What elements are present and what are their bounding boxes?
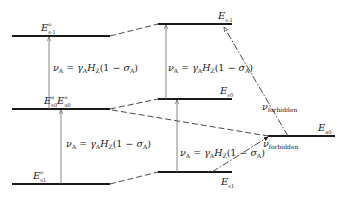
label-middle-top: Es-1 [217,10,233,23]
connector-to-right [112,110,268,136]
label-left-bottom: Eos1 [32,169,46,183]
energy-level-diagram: Eos-1 Eos0Eoa0 Eos1 Es-1 Es0 Es1 Ea0 νA … [0,0,342,198]
forbidden-transition-upper [224,27,288,136]
equation-left-lower: νA = γAHZ(1 − σA) [66,138,151,150]
connector-top [110,24,158,36]
label-right: Ea0 [317,122,331,135]
label-left-top: Eos-1 [40,21,56,35]
equation-left-upper: νA = γAHZ(1 − σA) [53,62,138,74]
forbidden-label-upper: νforbidden [262,101,297,113]
equation-middle-upper: νA = γAHZ(1 − σA) [168,62,253,74]
label-left-middle: Eos0Eoa0 [43,94,71,108]
connector-bottom [110,172,158,184]
forbidden-label-lower: νforbidden [263,138,298,150]
label-middle-bottom: Es1 [220,176,234,189]
connector-middle [110,99,158,109]
equation-middle-lower: νA = γAHZ(1 − σA) [180,147,265,159]
label-middle-middle: Es0 [219,85,233,98]
